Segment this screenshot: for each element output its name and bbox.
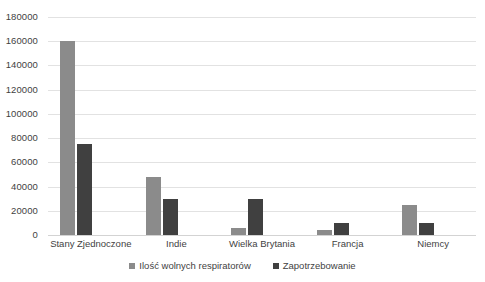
bar-group — [305, 17, 391, 235]
legend-swatch-icon — [273, 263, 279, 269]
bar — [402, 205, 417, 235]
bar — [419, 223, 434, 235]
legend-label: Ilość wolnych respiratorów — [139, 261, 250, 271]
bar — [146, 177, 161, 235]
y-axis-tick-label: 100000 — [6, 109, 38, 119]
bars-layer — [48, 17, 476, 235]
y-axis-tick-label: 60000 — [11, 158, 38, 168]
bar-chart: 0200004000060000800001000001200001400001… — [0, 0, 485, 282]
legend-swatch-icon — [129, 263, 135, 269]
bar — [163, 199, 178, 235]
bar — [77, 144, 92, 235]
y-axis-tick-label: 140000 — [6, 61, 38, 71]
legend-item[interactable]: Ilość wolnych respiratorów — [129, 261, 250, 271]
bar — [317, 230, 332, 235]
bar — [231, 228, 246, 235]
gridline — [48, 235, 476, 236]
y-axis-tick-label: 0 — [33, 230, 38, 240]
y-axis-tick-label: 20000 — [11, 206, 38, 216]
bar — [334, 223, 349, 235]
bar-group — [219, 17, 305, 235]
legend-label: Zapotrzebowanie — [283, 261, 356, 271]
y-axis-tick-label: 180000 — [6, 12, 38, 22]
x-axis-tick-label: Indie — [134, 239, 220, 249]
bar-group — [390, 17, 476, 235]
bar — [248, 199, 263, 235]
bar — [60, 41, 75, 235]
y-axis-tick-label: 40000 — [11, 182, 38, 192]
legend-item[interactable]: Zapotrzebowanie — [273, 261, 356, 271]
y-axis-tick-label: 120000 — [6, 85, 38, 95]
chart-legend: Ilość wolnych respiratorówZapotrzebowani… — [0, 261, 485, 271]
y-axis: 0200004000060000800001000001200001400001… — [0, 0, 44, 282]
x-axis-tick-label: Niemcy — [390, 239, 476, 249]
x-axis-tick-label: Francja — [305, 239, 391, 249]
x-axis-tick-label: Stany Zjednoczone — [48, 239, 134, 249]
y-axis-tick-label: 80000 — [11, 133, 38, 143]
x-axis-tick-label: Wielka Brytania — [219, 239, 305, 249]
x-axis: Stany ZjednoczoneIndieWielka BrytaniaFra… — [48, 239, 476, 255]
y-axis-tick-label: 160000 — [6, 36, 38, 46]
bar-group — [134, 17, 220, 235]
bar-group — [48, 17, 134, 235]
